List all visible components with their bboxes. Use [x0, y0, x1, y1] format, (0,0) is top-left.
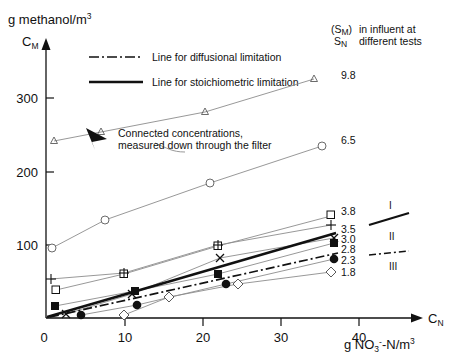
- y-axis-symbol: CM: [22, 34, 38, 51]
- y-tick-label-300: 300: [16, 91, 38, 106]
- markers-ratio-1-8: [119, 267, 336, 320]
- diffusional-limitation-line: [50, 253, 338, 317]
- x-axis-symbol: CN: [428, 311, 444, 328]
- marker-square-open: [327, 211, 335, 219]
- marker-diamond-open: [326, 267, 336, 277]
- marker-square-filled: [214, 270, 222, 278]
- reference-segment-III: [369, 251, 409, 255]
- marker-square-filled: [330, 239, 338, 247]
- marker-circle-open: [101, 216, 109, 224]
- legend-group: Line for diffusional limitation Line for…: [89, 51, 299, 88]
- marker-circle-filled: [77, 311, 86, 320]
- annotation-group: Connected concentrations, measured down …: [86, 127, 272, 152]
- reference-lines-group: I II III: [369, 200, 409, 272]
- x-axis-symbol-subscript: N: [437, 318, 443, 328]
- ratio-value-3-8: 3.8: [341, 205, 356, 217]
- x-axis-title-exponent: 3: [410, 336, 415, 346]
- line-id-I: I: [389, 200, 392, 211]
- marker-triangle-open: [311, 75, 318, 82]
- marker-circle-filled: [222, 280, 231, 289]
- y-axis-title-exponent: 3: [87, 11, 92, 21]
- legend-label-diffusional: Line for diffusional limitation: [152, 51, 282, 63]
- ratio-header-denominator-sub: N: [341, 39, 347, 49]
- legend-label-stoichiometric: Line for stoichiometric limitation: [152, 76, 299, 88]
- marker-circle-open: [48, 244, 56, 252]
- marker-plus: [326, 220, 336, 230]
- y-axis-title: g methanol/m3: [8, 11, 92, 27]
- ratio-header-group: (SM) SN in influent at different tests: [331, 23, 422, 49]
- line-id-II: II: [389, 231, 395, 242]
- markers-ratio-2-3: [77, 255, 339, 320]
- marker-plus: [46, 274, 56, 284]
- x-tick-label-0: 0: [40, 330, 47, 345]
- marker-circle-open: [318, 142, 326, 150]
- plot-reference-lines-group: [47, 233, 338, 317]
- series-lines-group: [51, 79, 334, 315]
- ratio-value-6-5: 6.5: [341, 134, 356, 146]
- chart-figure: 300 200 100 0 10 20 30 40 g methanol/m3 …: [0, 0, 459, 353]
- marker-circle-filled: [133, 301, 142, 310]
- stoichiometric-limitation-line: [47, 233, 336, 317]
- annotation-line1: Connected concentrations,: [118, 127, 243, 139]
- marker-circle-filled: [330, 255, 339, 264]
- ratio-header-denominator: SN: [334, 35, 347, 49]
- y-axis-arrowhead: [42, 38, 51, 50]
- marker-circle-open: [206, 179, 214, 187]
- y-tick-label-100: 100: [16, 238, 38, 253]
- y-axis-title-text: g methanol/m: [8, 12, 87, 27]
- annotation-line2: measured down through the filter: [118, 139, 272, 151]
- ratio-header-numerator-sub: M: [342, 27, 349, 37]
- ratio-value-1-8: 1.8: [341, 266, 356, 278]
- series-line-ratio-2-3: [81, 259, 334, 315]
- line-id-III: III: [389, 261, 397, 272]
- series-line-ratio-3-5: [51, 225, 331, 279]
- x-axis-arrowhead: [411, 314, 423, 323]
- ratio-values-group: 9.8 6.5 3.8 3.5 3.0 2.8 2.3 1.8: [341, 69, 356, 278]
- marker-square-open: [52, 286, 60, 294]
- ratio-value-2-3: 2.3: [341, 254, 356, 266]
- x-axis-title: g NO3--N/m3: [344, 336, 415, 353]
- y-tick-label-200: 200: [16, 165, 38, 180]
- marker-square-filled: [51, 302, 59, 310]
- marker-square-filled: [131, 287, 139, 295]
- marker-cross: [216, 254, 224, 262]
- marker-diamond-open: [164, 292, 174, 302]
- reference-segment-II: [369, 213, 409, 225]
- ratio-header-line1: in influent at: [359, 23, 416, 35]
- x-tick-label-20: 20: [196, 330, 210, 345]
- chart-svg: 300 200 100 0 10 20 30 40 g methanol/m3 …: [0, 0, 459, 353]
- y-axis-symbol-subscript: M: [31, 41, 38, 51]
- series-line-ratio-6-5: [52, 146, 322, 248]
- x-tick-label-10: 10: [118, 330, 132, 345]
- ratio-header-line2: different tests: [359, 35, 422, 47]
- x-tick-label-30: 30: [274, 330, 288, 345]
- series-line-ratio-3-0: [66, 238, 334, 314]
- ratio-value-9-8: 9.8: [341, 69, 356, 81]
